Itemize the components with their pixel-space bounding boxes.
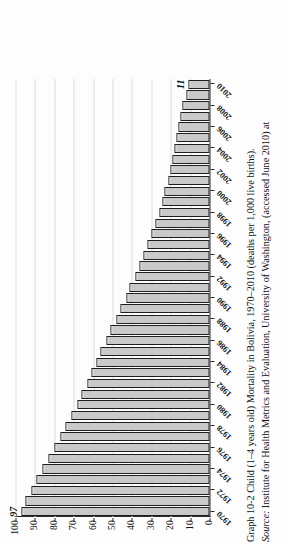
source-line: Source: Institute for Health Metrics and… bbox=[258, 72, 271, 542]
bar bbox=[54, 443, 209, 452]
bar bbox=[170, 165, 209, 174]
figure-page: 1009080706050403020100 9711 197019721974… bbox=[0, 0, 289, 544]
category-axis-tick bbox=[210, 83, 214, 84]
bar-highlight bbox=[92, 369, 93, 376]
bar-highlight bbox=[140, 262, 141, 269]
category-axis-tick bbox=[210, 147, 214, 148]
bar bbox=[60, 432, 209, 441]
bar bbox=[176, 133, 209, 142]
bar-highlight bbox=[183, 102, 184, 109]
bar bbox=[48, 454, 209, 463]
bar bbox=[91, 368, 209, 377]
bar bbox=[77, 400, 209, 409]
bar-highlight bbox=[144, 252, 145, 259]
category-axis-tick-label: 2002 bbox=[215, 167, 233, 185]
bar-highlight bbox=[169, 177, 170, 184]
figure-caption: Graph 10-2 Child (1–4 years old) Mortali… bbox=[243, 72, 273, 542]
value-axis-tick-label: 30 bbox=[146, 520, 156, 530]
bar bbox=[155, 219, 209, 228]
bar-highlight bbox=[117, 316, 118, 323]
category-axis-tick bbox=[210, 340, 214, 341]
rotated-figure-stage: 1009080706050403020100 9711 197019721974… bbox=[0, 0, 289, 544]
source-text: Institute for Health Metrics and Evaluat… bbox=[259, 122, 270, 509]
category-axis-tick bbox=[210, 126, 214, 127]
category-axis-tick bbox=[210, 318, 214, 319]
bar bbox=[129, 283, 209, 292]
category-axis-tick bbox=[210, 425, 214, 426]
bar bbox=[168, 176, 209, 185]
bar-highlight bbox=[49, 455, 50, 462]
bar bbox=[164, 187, 209, 196]
category-axis-tick bbox=[210, 297, 214, 298]
bar-highlight bbox=[127, 294, 128, 301]
value-axis-tick-label: 0 bbox=[204, 520, 214, 525]
bar-highlight bbox=[66, 423, 67, 430]
bar bbox=[87, 379, 209, 388]
value-axis-tick-label: 50 bbox=[107, 520, 117, 530]
bar bbox=[21, 507, 209, 516]
bar bbox=[178, 123, 209, 132]
value-axis-tick-label: 10 bbox=[185, 520, 195, 530]
bar bbox=[42, 464, 209, 473]
bar bbox=[135, 272, 209, 281]
bar bbox=[36, 475, 209, 484]
category-axis-tick-label: 1972 bbox=[215, 488, 233, 506]
bar bbox=[126, 293, 209, 302]
caption-label: Graph 10-2 bbox=[244, 495, 255, 542]
bar-highlight bbox=[72, 412, 73, 419]
bar-highlight bbox=[148, 241, 149, 248]
category-axis-tick bbox=[210, 169, 214, 170]
bar-highlight bbox=[160, 209, 161, 216]
bar bbox=[139, 261, 209, 270]
bar-highlight bbox=[78, 401, 79, 408]
bar-highlight bbox=[189, 81, 190, 88]
category-axis-tick-label: 2004 bbox=[215, 146, 233, 164]
bar-highlight bbox=[55, 444, 56, 451]
category-axis-tick-label: 1994 bbox=[215, 253, 233, 271]
category-axis-tick bbox=[210, 447, 214, 448]
bar bbox=[174, 144, 209, 153]
bar-highlight bbox=[37, 476, 38, 483]
bar bbox=[100, 347, 209, 356]
bar-highlight bbox=[26, 497, 27, 504]
category-axis-tick-label: 1978 bbox=[215, 424, 233, 442]
bar-highlight bbox=[163, 198, 164, 205]
bar bbox=[162, 197, 209, 206]
category-axis-tick-label: 1986 bbox=[215, 338, 233, 356]
category-axis-tick-label: 2008 bbox=[215, 103, 233, 121]
value-axis-tick-label: 40 bbox=[127, 520, 137, 530]
value-axis-labels: 1009080706050403020100 bbox=[14, 518, 210, 544]
bar bbox=[182, 101, 209, 110]
bar bbox=[65, 422, 209, 431]
category-axis-tick-label: 2010 bbox=[215, 82, 233, 100]
bar-highlight bbox=[136, 273, 137, 280]
bar bbox=[31, 486, 209, 495]
category-axis-tick bbox=[210, 212, 214, 213]
bar-highlight bbox=[22, 508, 23, 515]
bar-highlight bbox=[156, 220, 157, 227]
bar-highlight bbox=[175, 145, 176, 152]
category-axis-tick bbox=[210, 511, 214, 512]
bar-highlight bbox=[61, 433, 62, 440]
category-axis-tick-label: 1996 bbox=[215, 232, 233, 250]
bar bbox=[180, 112, 209, 121]
gridline bbox=[34, 79, 35, 517]
value-axis-tick-label: 90 bbox=[30, 520, 40, 530]
category-axis-tick-label: 1980 bbox=[215, 402, 233, 420]
caption-line: Graph 10-2 Child (1–4 years old) Mortali… bbox=[243, 72, 256, 542]
category-axis-tick-label: 1976 bbox=[215, 445, 233, 463]
bar-highlight bbox=[97, 359, 98, 366]
category-axis-tick-label: 1974 bbox=[215, 467, 233, 485]
bar-highlight bbox=[82, 391, 83, 398]
category-axis-tick bbox=[210, 489, 214, 490]
category-axis-tick bbox=[210, 361, 214, 362]
bar-highlight bbox=[43, 465, 44, 472]
bar-highlight bbox=[32, 487, 33, 494]
chart-figure: 1009080706050403020100 9711 197019721974… bbox=[0, 0, 289, 544]
bar-highlight bbox=[130, 284, 131, 291]
chart-plot-area: 1009080706050403020100 9711 197019721974… bbox=[14, 74, 234, 544]
category-axis-tick-label: 1970 bbox=[215, 509, 233, 527]
bar-highlight bbox=[152, 230, 153, 237]
category-axis-tick bbox=[210, 233, 214, 234]
bar bbox=[96, 358, 209, 367]
